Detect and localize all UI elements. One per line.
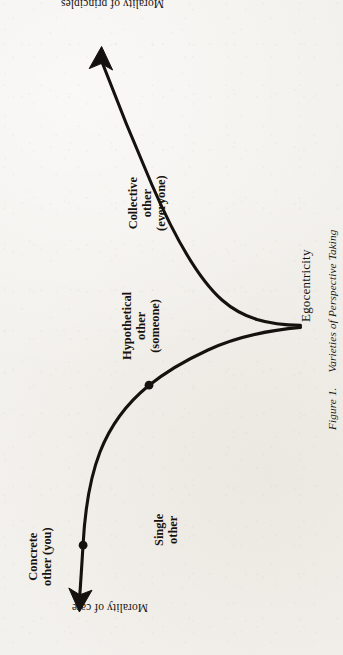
- node-label-collective-other: Collective other (everyone): [126, 175, 168, 231]
- apex-label-egocentricity: Egocentricity: [299, 249, 314, 322]
- figure-container: Morality of principles Morality of care …: [0, 0, 343, 655]
- node-label-hypothetical-line1: Hypothetical: [120, 292, 134, 360]
- node-label-single-line1: Single: [152, 514, 166, 546]
- node-label-concrete-line2: other (you): [40, 527, 54, 586]
- node-label-concrete-line1: Concrete: [26, 527, 40, 586]
- node-marker-concrete-other: [79, 541, 88, 550]
- figure-caption: Figure 1. Varieties of Perspective Takin…: [326, 229, 339, 430]
- node-label-single-other: Single other: [152, 514, 180, 546]
- node-label-concrete-other: Concrete other (you): [26, 527, 54, 586]
- node-label-hypothetical-other: Hypothetical other (someone): [120, 292, 162, 360]
- curve-morality-of-care: [80, 327, 301, 595]
- figure-caption-number: Figure 1.: [326, 387, 338, 430]
- axis-label-morality-of-care: Morality of care: [72, 601, 148, 614]
- node-label-collective-line2: other: [140, 175, 154, 231]
- node-label-hypothetical-line3: (someone): [148, 292, 162, 360]
- node-label-collective-line3: (everyone): [154, 175, 168, 231]
- node-label-single-line2: other: [166, 514, 180, 546]
- node-label-collective-line1: Collective: [126, 175, 140, 231]
- arrowhead-up-icon: [89, 47, 112, 71]
- axis-label-morality-of-principles: Morality of principles: [61, 0, 164, 10]
- figure-caption-title: Varieties of Perspective Taking: [326, 229, 338, 372]
- node-label-hypothetical-line2: other: [134, 292, 148, 360]
- node-marker-hypothetical-other: [145, 381, 154, 390]
